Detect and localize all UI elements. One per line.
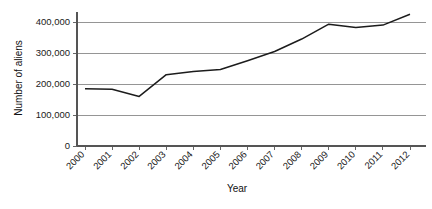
y-axis-tick-labels: 0100,000200,000300,000400,000 bbox=[36, 16, 77, 151]
x-axis-tick-label: 2005 bbox=[199, 149, 222, 172]
x-axis-tick-label: 2009 bbox=[307, 149, 330, 172]
x-axis-tick-label: 2010 bbox=[335, 149, 358, 172]
y-axis-title: Number of aliens bbox=[13, 40, 24, 116]
y-axis-tick-label: 100,000 bbox=[36, 109, 70, 120]
y-axis-tick-label: 400,000 bbox=[36, 16, 70, 27]
x-axis-tick-label: 2008 bbox=[280, 149, 303, 172]
x-axis-ticks bbox=[85, 146, 410, 150]
x-axis-tick-label: 2004 bbox=[172, 149, 195, 172]
x-axis-title: Year bbox=[227, 183, 248, 194]
line-chart: 0100,000200,000300,000400,000 2000200120… bbox=[0, 0, 432, 209]
x-axis-tick-label: 2003 bbox=[145, 149, 168, 172]
y-axis-tick-label: 0 bbox=[65, 140, 70, 151]
y-axis-tick-label: 300,000 bbox=[36, 47, 70, 58]
x-axis-tick-label: 2007 bbox=[253, 149, 276, 172]
x-axis-tick-labels: 2000200120022003200420052006200720082009… bbox=[64, 149, 412, 172]
y-axis-tick-label: 200,000 bbox=[36, 78, 70, 89]
chart-canvas: 0100,000200,000300,000400,000 2000200120… bbox=[0, 0, 432, 209]
x-axis-tick-label: 2006 bbox=[226, 149, 249, 172]
x-axis-tick-label: 2012 bbox=[389, 149, 412, 172]
gridlines bbox=[77, 22, 426, 115]
x-axis-tick-label: 2002 bbox=[118, 149, 141, 172]
x-axis-tick-label: 2011 bbox=[362, 149, 384, 171]
x-axis-tick-label: 2001 bbox=[91, 149, 114, 172]
x-axis-tick-label: 2000 bbox=[64, 149, 87, 172]
